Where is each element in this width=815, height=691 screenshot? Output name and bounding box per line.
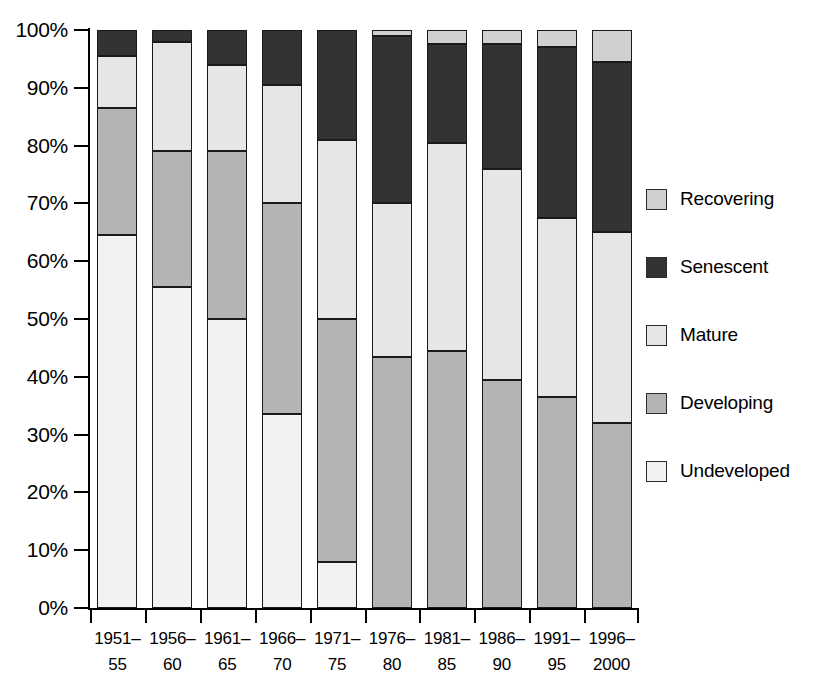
y-tick-label: 70%: [27, 191, 68, 215]
plot-area: [90, 30, 639, 608]
x-axis-label: 1961–65: [196, 626, 259, 678]
x-axis-label-line1: 1951–: [86, 626, 149, 652]
bar-1981-85[interactable]: [427, 30, 467, 608]
x-axis-label-line1: 1966–: [251, 626, 314, 652]
bar-1956-60[interactable]: [152, 30, 192, 608]
bar-segment-developing[interactable]: [592, 423, 632, 608]
x-tick-mark: [637, 608, 639, 623]
bar-segment-mature[interactable]: [152, 42, 192, 152]
bar-1966-70[interactable]: [262, 30, 302, 608]
legend-item-recovering[interactable]: Recovering: [646, 186, 774, 212]
bar-segment-senescent[interactable]: [372, 36, 412, 204]
y-tick-label: 90%: [27, 76, 68, 100]
y-tick-label: 0%: [38, 596, 68, 620]
bar-segment-developing[interactable]: [482, 380, 522, 608]
bar-segment-senescent[interactable]: [317, 30, 357, 140]
chart-legend: RecoveringSenescentMatureDevelopingUndev…: [646, 186, 815, 506]
y-tick-label: 30%: [27, 423, 68, 447]
bar-segment-mature[interactable]: [427, 143, 467, 351]
legend-label: Recovering: [680, 188, 774, 210]
x-axis-ticks: [90, 608, 639, 624]
x-axis-label: 1951–55: [86, 626, 149, 678]
x-axis-label-line2: 80: [361, 652, 424, 678]
bar-segment-undeveloped[interactable]: [262, 414, 302, 608]
bar-segment-undeveloped[interactable]: [317, 562, 357, 608]
bar-segment-senescent[interactable]: [207, 30, 247, 65]
y-tick-mark: [74, 434, 88, 436]
y-tick-mark: [74, 202, 88, 204]
legend-item-undeveloped[interactable]: Undeveloped: [646, 458, 790, 484]
bar-segment-recovering[interactable]: [427, 30, 467, 44]
x-axis-label-line1: 1991–: [525, 626, 588, 652]
legend-label: Mature: [680, 324, 738, 346]
bar-segment-mature[interactable]: [537, 218, 577, 397]
bar-1951-55[interactable]: [97, 30, 137, 608]
x-tick-mark: [255, 608, 257, 623]
bar-segment-mature[interactable]: [97, 56, 137, 108]
x-axis-label: 1981–85: [415, 626, 478, 678]
y-tick-label: 80%: [27, 134, 68, 158]
bar-segment-senescent[interactable]: [262, 30, 302, 85]
x-axis-labels: 1951–551956–601961–651966–701971–751976–…: [90, 626, 639, 686]
bar-segment-undeveloped[interactable]: [152, 287, 192, 608]
bar-segment-developing[interactable]: [537, 397, 577, 608]
x-axis-label-line1: 1981–: [415, 626, 478, 652]
bar-segment-mature[interactable]: [262, 85, 302, 203]
legend-label: Undeveloped: [680, 460, 790, 482]
x-axis-label-line2: 75: [306, 652, 369, 678]
legend-swatch-icon: [646, 393, 667, 414]
bar-segment-undeveloped[interactable]: [97, 235, 137, 608]
bar-segment-developing[interactable]: [427, 351, 467, 608]
legend-swatch-icon: [646, 189, 667, 210]
bar-segment-recovering[interactable]: [372, 30, 412, 36]
bar-segment-developing[interactable]: [97, 108, 137, 235]
bar-segment-senescent[interactable]: [537, 47, 577, 218]
bar-segment-undeveloped[interactable]: [207, 319, 247, 608]
y-tick-label: 60%: [27, 249, 68, 273]
bar-segment-mature[interactable]: [482, 169, 522, 380]
bar-segment-developing[interactable]: [317, 319, 357, 562]
x-axis-label-line1: 1961–: [196, 626, 259, 652]
bar-1971-75[interactable]: [317, 30, 357, 608]
x-axis-label-line2: 70: [251, 652, 314, 678]
legend-swatch-icon: [646, 325, 667, 346]
bar-1991-95[interactable]: [537, 30, 577, 608]
bar-segment-mature[interactable]: [317, 140, 357, 319]
y-axis: 0%10%20%30%40%50%60%70%80%90%100%: [0, 0, 78, 691]
y-tick-mark: [74, 29, 88, 31]
x-axis-label-line2: 65: [196, 652, 259, 678]
legend-item-mature[interactable]: Mature: [646, 322, 738, 348]
y-tick-mark: [74, 549, 88, 551]
bar-segment-senescent[interactable]: [592, 62, 632, 233]
bar-segment-mature[interactable]: [592, 232, 632, 423]
legend-swatch-icon: [646, 257, 667, 278]
bar-segment-senescent[interactable]: [152, 30, 192, 42]
bar-segment-mature[interactable]: [207, 65, 247, 152]
bar-1986-90[interactable]: [482, 30, 522, 608]
y-tick-mark: [74, 491, 88, 493]
bar-segment-recovering[interactable]: [482, 30, 522, 44]
bar-segment-recovering[interactable]: [592, 30, 632, 62]
legend-item-senescent[interactable]: Senescent: [646, 254, 768, 280]
bar-segment-senescent[interactable]: [482, 44, 522, 168]
x-axis-label: 1986–90: [470, 626, 533, 678]
x-axis-label-line2: 85: [415, 652, 478, 678]
bar-segment-developing[interactable]: [262, 203, 302, 414]
bar-segment-developing[interactable]: [152, 151, 192, 287]
x-axis-label-line1: 1976–: [361, 626, 424, 652]
legend-item-developing[interactable]: Developing: [646, 390, 773, 416]
bar-1976-80[interactable]: [372, 30, 412, 608]
x-axis-label-line2: 90: [470, 652, 533, 678]
bar-segment-developing[interactable]: [207, 151, 247, 319]
x-axis-label: 1996–2000: [580, 626, 643, 678]
bar-segment-mature[interactable]: [372, 203, 412, 356]
bar-segment-developing[interactable]: [372, 357, 412, 608]
bar-1996-2000[interactable]: [592, 30, 632, 608]
x-axis-label-line1: 1956–: [141, 626, 204, 652]
bar-segment-recovering[interactable]: [537, 30, 577, 47]
legend-swatch-icon: [646, 461, 667, 482]
bar-segment-senescent[interactable]: [97, 30, 137, 56]
bar-1961-65[interactable]: [207, 30, 247, 608]
bar-segment-senescent[interactable]: [427, 44, 467, 142]
x-axis-label-line1: 1996–: [580, 626, 643, 652]
